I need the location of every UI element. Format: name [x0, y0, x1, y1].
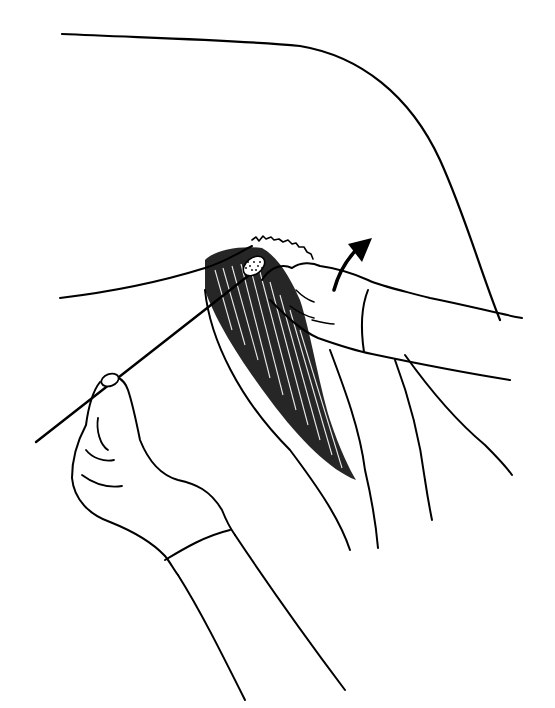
thumbnail: [99, 371, 120, 388]
line-drawing: [0, 0, 555, 708]
illustration: [0, 0, 555, 708]
direction-arrow: [334, 238, 372, 290]
swab-stick-highlight: [38, 277, 246, 441]
